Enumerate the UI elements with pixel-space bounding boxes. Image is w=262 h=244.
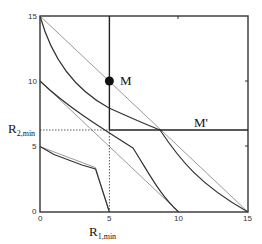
dark-curve-5: [40, 147, 109, 212]
chart: M M' 15 10 5 0 0 5 10 15 R2,min R1,min: [0, 0, 262, 244]
y-tick-15: 15: [28, 12, 37, 21]
point-m-marker: [105, 77, 114, 86]
x-tick-10: 10: [174, 214, 183, 223]
y-tick-0: 0: [32, 207, 37, 216]
y-tick-5: 5: [32, 142, 37, 151]
y-tick-10: 10: [28, 77, 37, 86]
x-tick-15: 15: [243, 214, 252, 223]
x-tick-5: 5: [107, 214, 112, 223]
x-tick-0: 0: [38, 214, 43, 223]
x-axis-label: R1,min: [89, 224, 116, 241]
point-m-prime-label: M': [194, 115, 208, 130]
point-m-label: M: [120, 73, 132, 88]
grey-line-15: [40, 16, 248, 212]
y-axis-label: R2,min: [8, 121, 35, 138]
